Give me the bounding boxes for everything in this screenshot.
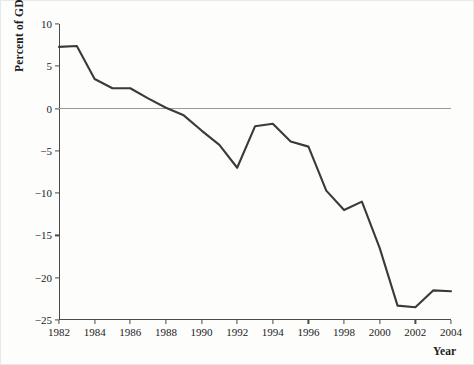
x-tick-mark <box>165 320 166 324</box>
x-tick-mark <box>94 320 95 324</box>
x-tick-mark <box>130 320 131 324</box>
y-axis-title: Percent of GDP <box>13 0 25 82</box>
x-tick-label: 1994 <box>262 326 284 338</box>
x-tick-label: 1986 <box>119 326 141 338</box>
x-tick-label: 1990 <box>191 326 213 338</box>
x-tick-mark <box>343 320 344 324</box>
y-tick-label: −15 <box>35 229 52 241</box>
chart-page: Percent of GDP Year 1050−5−10−15−20−25 1… <box>0 0 474 365</box>
x-axis-title: Year <box>433 345 456 357</box>
x-tick-label: 2000 <box>369 326 391 338</box>
y-tick-label: −20 <box>35 272 52 284</box>
y-tick-label: 0 <box>47 103 53 115</box>
plot-area: 1050−5−10−15−20−25 198219841986198819901… <box>59 24 451 320</box>
y-tick-label: 5 <box>47 60 53 72</box>
x-tick-mark <box>272 320 273 324</box>
y-tick-label: −25 <box>35 314 52 326</box>
x-tick-label: 2004 <box>440 326 462 338</box>
x-tick-mark <box>379 320 380 324</box>
x-tick-mark <box>415 320 416 324</box>
x-tick-mark <box>450 320 451 324</box>
y-tick-mark <box>55 235 59 236</box>
y-tick-mark <box>55 277 59 278</box>
x-tick-mark <box>237 320 238 324</box>
chart-svg <box>59 24 359 174</box>
y-tick-mark <box>55 193 59 194</box>
x-tick-label: 1996 <box>297 326 319 338</box>
x-tick-label: 1998 <box>333 326 355 338</box>
x-tick-label: 1984 <box>84 326 106 338</box>
y-tick-label: −10 <box>35 187 52 199</box>
x-tick-mark <box>308 320 309 324</box>
x-tick-label: 1988 <box>155 326 177 338</box>
x-tick-label: 1982 <box>48 326 70 338</box>
x-tick-mark <box>201 320 202 324</box>
x-tick-label: 1992 <box>226 326 248 338</box>
y-tick-label: 10 <box>41 18 52 30</box>
x-tick-label: 2002 <box>404 326 426 338</box>
y-tick-label: −5 <box>40 145 52 157</box>
x-tick-mark <box>58 320 59 324</box>
